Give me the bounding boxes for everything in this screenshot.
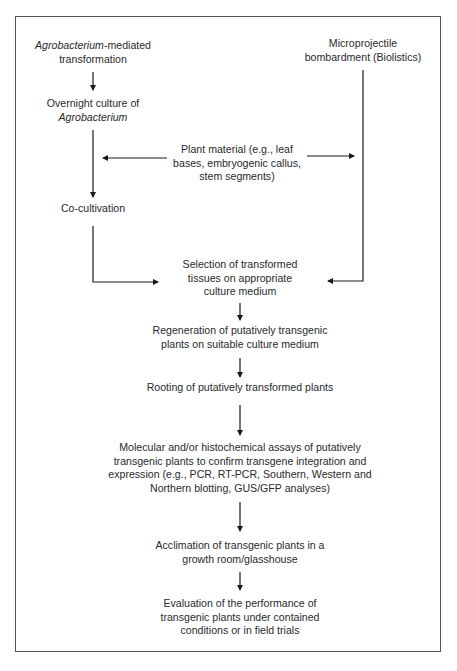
node-acclimation: Acclimation of transgenic plants in a gr… bbox=[156, 539, 325, 566]
arrow-cocultivation-to-selection bbox=[93, 226, 158, 282]
text-line: transgenic plants to confirm transgene i… bbox=[108, 455, 371, 469]
text-line: culture medium bbox=[183, 285, 298, 299]
node-co-cultivation: Co-cultivation bbox=[61, 202, 125, 216]
text-line: bases, embryogenic callus, bbox=[173, 157, 301, 171]
text-line: Regeneration of putatively transgenic bbox=[153, 324, 328, 338]
node-regeneration: Regeneration of putatively transgenic pl… bbox=[153, 324, 328, 351]
node-molecular-assays: Molecular and/or histochemical assays of… bbox=[108, 441, 371, 495]
text-line: Overnight culture of bbox=[47, 97, 139, 111]
text-line: plants on suitable culture medium bbox=[153, 338, 328, 352]
arrow-biolistics-to-selection bbox=[328, 70, 363, 281]
node-microprojectile-bombardment: Microprojectile bombardment (Biolistics) bbox=[305, 37, 422, 64]
text-line: transgenic plants under contained bbox=[160, 611, 319, 625]
text-line: Plant material (e.g., leaf bbox=[173, 143, 301, 157]
node-overnight-culture: Overnight culture of Agrobacterium bbox=[47, 97, 139, 124]
node-plant-material: Plant material (e.g., leaf bases, embryo… bbox=[173, 143, 301, 184]
node-evaluation: Evaluation of the performance of transge… bbox=[160, 597, 319, 638]
text-line: Molecular and/or histochemical assays of… bbox=[108, 441, 371, 455]
italic-term: Agrobacterium bbox=[35, 39, 104, 51]
text-line: Rooting of putatively transformed plants bbox=[147, 381, 334, 395]
text-line: Northern blotting, GUS/GFP analyses) bbox=[108, 482, 371, 496]
text-line: expression (e.g., PCR, RT-PCR, Southern,… bbox=[108, 468, 371, 482]
text-line: Evaluation of the performance of bbox=[160, 597, 319, 611]
text-line: Selection of transformed bbox=[183, 258, 298, 272]
text-line: Co-cultivation bbox=[61, 202, 125, 216]
node-selection: Selection of transformed tissues on appr… bbox=[183, 258, 298, 299]
text-line: tissues on appropriate bbox=[183, 272, 298, 286]
text-line: growth room/glasshouse bbox=[156, 553, 325, 567]
text-line: Acclimation of transgenic plants in a bbox=[156, 539, 325, 553]
text-line: transformation bbox=[35, 53, 151, 67]
italic-term: Agrobacterium bbox=[59, 111, 128, 123]
text-line: conditions or in field trials bbox=[160, 624, 319, 638]
node-rooting: Rooting of putatively transformed plants bbox=[147, 381, 334, 395]
node-agrobacterium-mediated-transformation: Agrobacterium-mediated transformation bbox=[35, 39, 151, 66]
text-line: stem segments) bbox=[173, 170, 301, 184]
text-line: bombardment (Biolistics) bbox=[305, 51, 422, 65]
text-line: -mediated bbox=[104, 39, 151, 51]
text-line: Microprojectile bbox=[305, 37, 422, 51]
